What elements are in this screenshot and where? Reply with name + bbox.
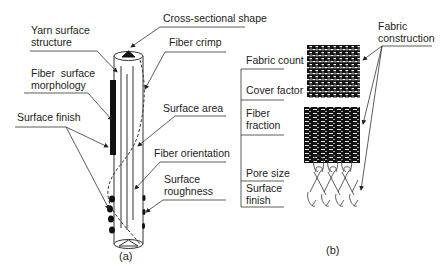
label-cross-sectional-shape: Cross-sectional shape xyxy=(163,12,267,24)
label-fabric-construction: Fabric construction xyxy=(378,20,435,44)
label-surface-roughness: Surface roughness xyxy=(164,173,213,197)
plain-weave-swatch xyxy=(307,45,360,98)
label-fabric-count: Fabric count xyxy=(246,54,304,66)
label-fiber-fraction: Fiber fraction xyxy=(246,107,280,131)
fiber-fabric-properties-diagram: Cross-sectional shape Yarn surface struc… xyxy=(0,0,441,266)
fiber-cylinder xyxy=(107,51,146,249)
caption-a: (a) xyxy=(119,250,132,262)
caption-b: (b) xyxy=(326,244,339,256)
twill-weave-swatch xyxy=(304,107,360,163)
label-pore-size: Pore size xyxy=(246,167,290,179)
label-surface-area: Surface area xyxy=(163,102,223,114)
label-fiber-surface-morphology: Fiber surface morphology xyxy=(31,67,95,91)
knit-swatch xyxy=(308,156,358,207)
label-yarn-surface-structure: Yarn surface structure xyxy=(31,24,90,48)
label-fiber-orientation: Fiber orientation xyxy=(154,147,230,159)
label-surface-finish-b: Surface finish xyxy=(246,182,282,206)
label-cover-factor: Cover factor xyxy=(246,84,303,96)
label-surface-finish-a: Surface finish xyxy=(17,111,81,123)
label-fiber-crimp: Fiber crimp xyxy=(169,36,222,48)
leader-lines-b xyxy=(361,46,432,190)
